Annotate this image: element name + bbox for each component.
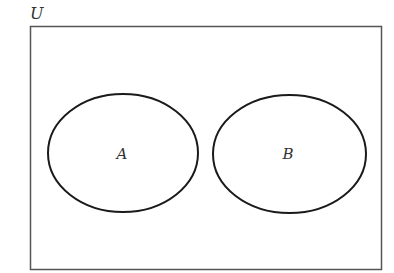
- set-b-label: B: [281, 145, 293, 163]
- universe-rectangle: [31, 27, 382, 270]
- venn-diagram: U A B: [0, 0, 394, 273]
- universe-label: U: [30, 4, 44, 23]
- set-a-label: A: [115, 145, 128, 163]
